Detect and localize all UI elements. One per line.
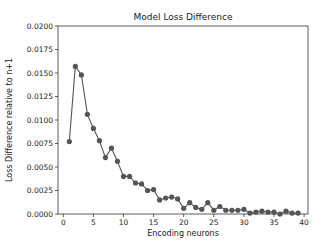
x-tick-label: 25 — [209, 218, 219, 227]
data-point-marker — [103, 155, 108, 160]
data-point-marker — [145, 188, 150, 193]
data-point-marker — [115, 159, 120, 164]
data-point-marker — [277, 211, 282, 216]
x-tick-label: 5 — [91, 218, 96, 227]
data-point-marker — [271, 210, 276, 215]
y-tick-label: 0.0175 — [27, 45, 53, 54]
y-tick-label: 0.0050 — [27, 163, 53, 172]
x-tick-label: 35 — [269, 218, 279, 227]
data-point-marker — [289, 210, 294, 215]
data-point-marker — [67, 139, 72, 144]
y-tick-label: 0.0100 — [27, 116, 53, 125]
data-point-marker — [109, 146, 114, 151]
data-point-marker — [73, 64, 78, 69]
data-point-marker — [199, 207, 204, 212]
data-point-marker — [253, 210, 258, 215]
y-axis: 0.00000.00250.00500.00750.01000.01250.01… — [27, 22, 58, 219]
x-tick-label: 15 — [149, 218, 159, 227]
data-point-marker — [247, 210, 252, 215]
data-point-marker — [97, 138, 102, 143]
data-point-marker — [181, 206, 186, 211]
data-point-marker — [211, 208, 216, 213]
data-point-marker — [169, 194, 174, 199]
y-tick-label: 0.0200 — [27, 22, 53, 31]
series-line — [69, 66, 298, 214]
x-axis-label: Encoding neurons — [147, 229, 219, 238]
data-point-marker — [229, 208, 234, 213]
loss-difference-chart: Model Loss Difference 0.00000.00250.0050… — [0, 0, 325, 250]
data-point-marker — [121, 174, 126, 179]
x-tick-label: 0 — [61, 218, 66, 227]
data-point-marker — [265, 210, 270, 215]
data-point-marker — [163, 195, 168, 200]
data-point-marker — [151, 187, 156, 192]
data-point-marker — [91, 126, 96, 131]
data-point-marker — [193, 205, 198, 210]
data-point-marker — [157, 197, 162, 202]
data-point-marker — [79, 72, 84, 77]
data-point-marker — [133, 180, 138, 185]
y-tick-label: 0.0150 — [27, 69, 53, 78]
y-tick-label: 0.0000 — [27, 210, 53, 219]
data-point-marker — [283, 209, 288, 214]
data-point-marker — [223, 208, 228, 213]
data-point-marker — [217, 204, 222, 209]
data-series — [67, 64, 301, 217]
plot-area — [58, 26, 308, 214]
x-axis: 0510152025303540 — [61, 214, 309, 227]
data-point-marker — [205, 200, 210, 205]
data-point-marker — [295, 210, 300, 215]
data-point-marker — [127, 174, 132, 179]
data-point-marker — [85, 112, 90, 117]
data-point-marker — [259, 209, 264, 214]
x-tick-label: 20 — [179, 218, 189, 227]
x-tick-label: 40 — [299, 218, 309, 227]
data-point-marker — [235, 208, 240, 213]
x-tick-label: 10 — [119, 218, 129, 227]
y-tick-label: 0.0025 — [27, 186, 53, 195]
data-point-marker — [241, 207, 246, 212]
chart-title: Model Loss Difference — [134, 12, 233, 22]
y-tick-label: 0.0125 — [27, 92, 53, 101]
y-axis-label: Loss Difference relative to n+1 — [5, 58, 14, 182]
x-tick-label: 30 — [239, 218, 249, 227]
data-point-marker — [187, 200, 192, 205]
data-point-marker — [139, 181, 144, 186]
y-tick-label: 0.0075 — [27, 139, 53, 148]
data-point-marker — [175, 196, 180, 201]
